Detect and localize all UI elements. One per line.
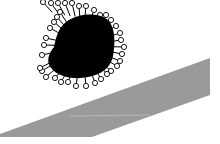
ligand-head bbox=[51, 19, 56, 24]
ligand-head bbox=[114, 63, 119, 68]
particle-core bbox=[48, 15, 114, 79]
ligand-head bbox=[39, 52, 44, 57]
ligand bbox=[69, 0, 75, 16]
ligand-head bbox=[91, 7, 96, 12]
ligand-head bbox=[57, 9, 62, 14]
diagram-canvas bbox=[0, 0, 220, 144]
ligand-head bbox=[113, 23, 118, 28]
ligand-head bbox=[76, 3, 81, 8]
ligand-head bbox=[104, 71, 109, 76]
ligand-tail bbox=[66, 5, 70, 16]
ligand-head bbox=[92, 80, 97, 85]
ligand-head bbox=[103, 12, 108, 17]
ligand-head bbox=[117, 58, 122, 63]
ligand-head bbox=[62, 0, 67, 5]
ligand-head bbox=[41, 42, 46, 47]
ligand-head bbox=[43, 35, 48, 40]
ligand-head bbox=[98, 76, 103, 81]
ligand-head bbox=[43, 74, 48, 79]
ligand-head bbox=[48, 0, 53, 5]
ligand-head bbox=[47, 25, 52, 30]
ligand-head bbox=[73, 83, 78, 88]
ligand-head bbox=[58, 79, 63, 84]
ligand-head bbox=[37, 65, 42, 70]
ligand-head bbox=[119, 51, 124, 56]
ligand-head bbox=[117, 30, 122, 35]
substrate-surface bbox=[0, 58, 210, 137]
ligand-head bbox=[83, 83, 88, 88]
ligand-head bbox=[40, 0, 45, 5]
ligand-head bbox=[65, 79, 70, 84]
ligand-head bbox=[55, 0, 60, 5]
ligand-head bbox=[118, 37, 123, 42]
nanoparticle bbox=[37, 0, 126, 89]
ligand-head bbox=[121, 44, 126, 49]
ligand-tail bbox=[73, 6, 76, 17]
ligand-head bbox=[54, 14, 59, 19]
ligand-head bbox=[52, 75, 57, 80]
sloped-surface bbox=[0, 58, 210, 137]
ligand-head bbox=[83, 3, 88, 8]
ligand-head bbox=[69, 0, 74, 5]
